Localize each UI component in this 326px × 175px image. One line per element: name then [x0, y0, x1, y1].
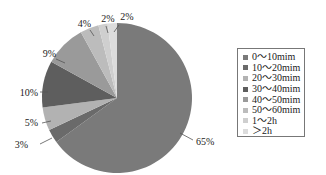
slice-percent-label: 10%: [20, 87, 38, 98]
slice-percent-label: 3%: [15, 139, 28, 150]
slice-percent-label: 65%: [196, 136, 214, 147]
leader-line: [40, 138, 52, 144]
slice-percent-label: 4%: [78, 18, 91, 29]
legend-swatch: [243, 76, 248, 81]
slice-percent-label: 9%: [43, 48, 56, 59]
legend-swatch: [243, 65, 248, 70]
legend-swatch: [243, 55, 248, 60]
legend-label: 10～20mim: [252, 63, 300, 73]
legend-item: ＞2h: [243, 126, 304, 137]
legend-swatch: [243, 129, 248, 134]
legend-label: ＞2h: [252, 126, 272, 136]
legend-item: 50～60mim: [243, 105, 304, 116]
legend-label: 50～60mim: [252, 105, 300, 115]
legend-swatch: [243, 118, 248, 123]
slice-percent-label: 2%: [120, 11, 133, 22]
legend-label: 40～50mim: [252, 95, 300, 105]
leader-line: [180, 133, 193, 140]
legend-swatch: [243, 97, 248, 102]
legend-label: 20～30mim: [252, 73, 300, 83]
legend-swatch: [243, 108, 248, 113]
legend-label: 1～2h: [252, 116, 277, 126]
legend-item: 0～10mim: [243, 52, 304, 63]
slice-percent-label: 2%: [101, 13, 114, 24]
chart-legend: 0～10mim 10～20mim 20～30mim 30～40mim 40～50…: [237, 48, 305, 137]
slice-percent-label: 5%: [25, 117, 38, 128]
legend-label: 0～10mim: [252, 52, 295, 62]
legend-item: 30～40mim: [243, 84, 304, 95]
legend-label: 30～40mim: [252, 84, 300, 94]
legend-swatch: [243, 87, 248, 92]
